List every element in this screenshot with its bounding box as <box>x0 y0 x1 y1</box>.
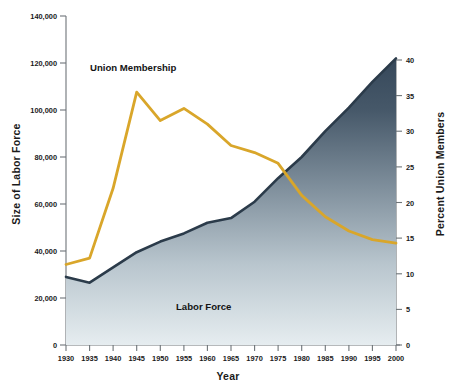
right-tick-label: 15 <box>406 234 414 243</box>
right-tick-label: 40 <box>406 56 414 65</box>
left-tick-label: 20,000 <box>34 294 57 303</box>
chart-canvas <box>0 0 456 388</box>
x-tick-label: 1965 <box>223 354 239 363</box>
left-tick-label: 120,000 <box>30 59 57 68</box>
right-tick-label: 5 <box>406 305 410 314</box>
right-tick-label: 25 <box>406 162 414 171</box>
right-axis-ticks <box>396 60 402 345</box>
union-labor-force-chart: Size of Labor Force Percent Union Member… <box>0 0 456 388</box>
x-tick-label: 1995 <box>364 354 380 363</box>
x-tick-label: 1990 <box>341 354 357 363</box>
left-tick-label: 60,000 <box>34 200 57 209</box>
x-tick-label: 1970 <box>246 354 262 363</box>
x-tick-label: 1985 <box>317 354 333 363</box>
x-tick-label: 1930 <box>58 354 74 363</box>
x-tick-label: 1950 <box>152 354 168 363</box>
right-tick-label: 20 <box>406 198 414 207</box>
left-tick-label: 80,000 <box>34 153 57 162</box>
left-axis-ticks <box>60 16 66 345</box>
x-tick-label: 1935 <box>81 354 97 363</box>
left-tick-label: 40,000 <box>34 247 57 256</box>
right-tick-label: 10 <box>406 269 414 278</box>
right-tick-label: 0 <box>406 341 410 350</box>
x-axis-title: Year <box>0 370 456 382</box>
union-membership-label: Union Membership <box>90 62 176 73</box>
x-tick-label: 1975 <box>270 354 286 363</box>
x-tick-label: 1955 <box>176 354 192 363</box>
left-tick-label: 0 <box>53 341 57 350</box>
x-tick-label: 1960 <box>199 354 215 363</box>
x-tick-label: 1945 <box>128 354 144 363</box>
x-tick-label: 1980 <box>293 354 309 363</box>
left-tick-label: 100,000 <box>30 106 57 115</box>
y-axis-left-title: Size of Labor Force <box>10 114 22 234</box>
left-tick-label: 140,000 <box>30 12 57 21</box>
x-tick-label: 2000 <box>388 354 404 363</box>
labor-force-label: Labor Force <box>176 301 231 312</box>
x-axis-ticks <box>66 345 396 351</box>
right-tick-label: 35 <box>406 91 414 100</box>
right-tick-label: 30 <box>406 127 414 136</box>
y-axis-right-title: Percent Union Members <box>434 94 446 254</box>
x-tick-label: 1940 <box>105 354 121 363</box>
